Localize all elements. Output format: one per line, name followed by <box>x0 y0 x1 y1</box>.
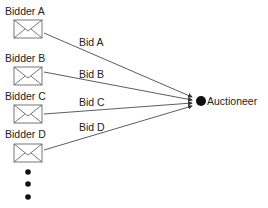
auctioneer-node-icon <box>196 96 206 106</box>
bid-b-arrow <box>44 72 192 100</box>
bidder-a: Bidder A Bid A <box>5 5 192 97</box>
bidder-d-label: Bidder D <box>5 128 46 140</box>
envelope-icon <box>14 20 42 38</box>
bidder-d: Bidder D Bid D <box>5 106 192 162</box>
bid-b-label: Bid B <box>79 68 104 80</box>
bidder-c-label: Bidder C <box>5 90 46 102</box>
envelope-icon <box>14 144 42 162</box>
bidder-a-label: Bidder A <box>5 5 45 17</box>
auction-diagram: Bidder A Bid A Bidder B Bid B Bidder C <box>0 0 268 208</box>
bidder-b-label: Bidder B <box>5 52 45 64</box>
bid-c-label: Bid C <box>79 96 105 108</box>
bid-a-label: Bid A <box>79 36 104 48</box>
auctioneer: Auctioneer <box>196 95 258 107</box>
envelope-icon <box>14 67 42 85</box>
bid-d-label: Bid D <box>79 121 105 133</box>
ellipsis-dots-icon <box>25 169 31 200</box>
envelope-icon <box>14 105 42 123</box>
bid-a-arrow <box>44 33 192 97</box>
auctioneer-label: Auctioneer <box>207 95 258 107</box>
